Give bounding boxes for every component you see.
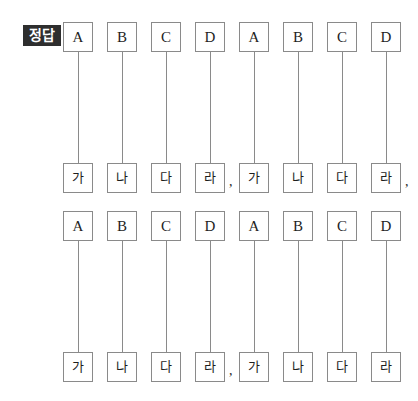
answer-key-page: 정답 ABCDABCD가나다라,가나다라, ABCDABCD가나다라,가나다라 — [0, 0, 418, 401]
connector-line — [298, 52, 299, 163]
top-row: ABCDABCD — [0, 211, 418, 241]
hangul-box[interactable]: 라 — [371, 352, 401, 382]
hangul-box[interactable]: 가 — [63, 163, 93, 193]
connector-line — [254, 52, 255, 163]
connector-line — [210, 241, 211, 352]
connector-line — [386, 52, 387, 163]
hangul-box[interactable]: 다 — [327, 163, 357, 193]
connector-line — [298, 241, 299, 352]
connector-line — [166, 52, 167, 163]
hangul-box[interactable]: 다 — [151, 163, 181, 193]
letter-box[interactable]: D — [195, 211, 225, 241]
letter-box[interactable]: B — [107, 22, 137, 52]
letter-box[interactable]: A — [239, 22, 269, 52]
connector-line — [166, 241, 167, 352]
letter-box[interactable]: A — [63, 22, 93, 52]
hangul-box[interactable]: 나 — [107, 352, 137, 382]
bottom-row: 가나다라,가나다라, — [0, 163, 418, 193]
connector-line — [122, 52, 123, 163]
letter-box[interactable]: D — [195, 22, 225, 52]
connector-line — [78, 241, 79, 352]
hangul-box[interactable]: 라 — [371, 163, 401, 193]
comma-separator: , — [229, 352, 233, 382]
connector-line — [342, 52, 343, 163]
connector-line — [210, 52, 211, 163]
hangul-box[interactable]: 나 — [283, 352, 313, 382]
connector-line — [122, 241, 123, 352]
hangul-box[interactable]: 가 — [239, 352, 269, 382]
letter-box[interactable]: A — [239, 211, 269, 241]
connector-line — [254, 241, 255, 352]
top-row: ABCDABCD — [0, 22, 418, 52]
connector-line — [78, 52, 79, 163]
hangul-box[interactable]: 다 — [327, 352, 357, 382]
letter-box[interactable]: D — [371, 22, 401, 52]
letter-box[interactable]: A — [63, 211, 93, 241]
hangul-box[interactable]: 나 — [107, 163, 137, 193]
hangul-box[interactable]: 가 — [63, 352, 93, 382]
hangul-box[interactable]: 다 — [151, 352, 181, 382]
letter-box[interactable]: B — [107, 211, 137, 241]
comma-separator: , — [229, 163, 233, 193]
letter-box[interactable]: C — [327, 22, 357, 52]
comma-separator: , — [405, 163, 409, 193]
hangul-box[interactable]: 라 — [195, 352, 225, 382]
letter-box[interactable]: D — [371, 211, 401, 241]
connector-line — [342, 241, 343, 352]
letter-box[interactable]: C — [327, 211, 357, 241]
letter-box[interactable]: B — [283, 22, 313, 52]
hangul-box[interactable]: 나 — [283, 163, 313, 193]
bottom-row: 가나다라,가나다라 — [0, 352, 418, 382]
letter-box[interactable]: C — [151, 22, 181, 52]
letter-box[interactable]: B — [283, 211, 313, 241]
connector-line — [386, 241, 387, 352]
letter-box[interactable]: C — [151, 211, 181, 241]
hangul-box[interactable]: 라 — [195, 163, 225, 193]
hangul-box[interactable]: 가 — [239, 163, 269, 193]
